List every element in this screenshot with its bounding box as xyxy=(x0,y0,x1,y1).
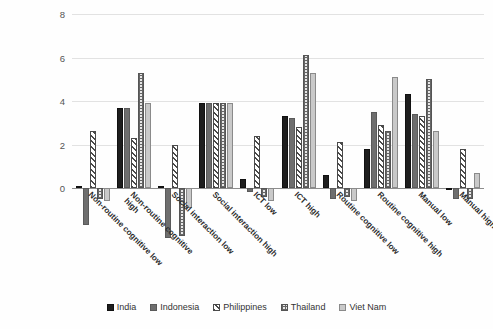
bar xyxy=(138,73,144,188)
bar xyxy=(296,127,302,188)
bar xyxy=(310,73,316,188)
legend-item-india[interactable]: India xyxy=(107,302,137,312)
x-axis-category-labels: Non-routine cognitive lowNon-routine cog… xyxy=(72,190,484,290)
bar xyxy=(364,149,370,188)
bar xyxy=(220,103,226,188)
bar xyxy=(405,94,411,188)
bar-group xyxy=(278,14,319,188)
legend-item-thailand[interactable]: Thailand xyxy=(281,302,326,312)
bar-group xyxy=(237,14,278,188)
x-axis-category-label: ICT low xyxy=(252,190,259,197)
bar xyxy=(426,79,432,188)
bar-chart: 02468 Non-routine cognitive lowNon-routi… xyxy=(0,0,493,329)
bar xyxy=(76,186,82,188)
legend-label: India xyxy=(117,302,137,312)
y-axis-tick-label: 8 xyxy=(60,9,65,20)
bar xyxy=(124,108,130,188)
x-axis-category-label: Social interaction low xyxy=(169,190,176,197)
bar-group xyxy=(113,14,154,188)
x-axis-category-label: Non-routine cognitive low xyxy=(87,190,94,197)
y-axis-tick-label: 2 xyxy=(60,139,65,150)
bar xyxy=(378,125,384,188)
bar xyxy=(158,186,164,188)
legend-swatch-icon xyxy=(107,304,114,311)
x-axis-category-label: Routine cognitive low xyxy=(334,190,341,197)
legend-item-viet-nam[interactable]: Viet Nam xyxy=(339,302,386,312)
bar xyxy=(254,136,260,188)
bar-groups xyxy=(72,14,484,188)
chart-legend: IndiaIndonesiaPhilippinesThailandViet Na… xyxy=(0,302,493,312)
bar xyxy=(117,108,123,188)
bar xyxy=(90,131,96,188)
legend-label: Indonesia xyxy=(160,302,199,312)
bar-group xyxy=(402,14,443,188)
bar xyxy=(419,116,425,188)
bar xyxy=(474,173,480,188)
bar-group xyxy=(72,14,113,188)
x-axis-category-label: ICT high xyxy=(293,190,300,197)
bar xyxy=(303,55,309,188)
legend-swatch-icon xyxy=(213,304,220,311)
bar-group xyxy=(319,14,360,188)
legend-swatch-icon xyxy=(150,304,157,311)
bar xyxy=(412,114,418,188)
bar xyxy=(323,175,329,188)
bar xyxy=(385,131,391,188)
legend-swatch-icon xyxy=(281,304,288,311)
bar xyxy=(213,103,219,188)
bar xyxy=(227,103,233,188)
legend-swatch-icon xyxy=(339,304,346,311)
x-axis-category-label: Manual high xyxy=(458,190,465,197)
bar-group xyxy=(443,14,484,188)
x-axis-category-label: Social interaction high xyxy=(210,190,217,197)
bar xyxy=(282,116,288,188)
legend-label: Philippines xyxy=(223,302,267,312)
bar xyxy=(460,149,466,188)
bar xyxy=(131,138,137,188)
bar xyxy=(199,103,205,188)
bar-group xyxy=(196,14,237,188)
bar xyxy=(145,103,151,188)
bar xyxy=(289,118,295,188)
bar xyxy=(206,103,212,188)
y-axis-tick-label: 6 xyxy=(60,52,65,63)
x-axis-category-label: Routine cognitive high xyxy=(375,190,382,197)
y-axis-tick-label: 0 xyxy=(60,183,65,194)
legend-label: Thailand xyxy=(291,302,326,312)
plot-area: 02468 xyxy=(72,14,484,188)
legend-item-indonesia[interactable]: Indonesia xyxy=(150,302,199,312)
x-axis-category-label: Manual low xyxy=(416,190,423,197)
bar xyxy=(240,179,246,188)
bar-group xyxy=(360,14,401,188)
bar xyxy=(371,112,377,188)
bar xyxy=(433,131,439,188)
y-axis-tick-label: 4 xyxy=(60,96,65,107)
bar-group xyxy=(154,14,195,188)
bar xyxy=(337,142,343,188)
bar xyxy=(392,77,398,188)
x-axis-category-label: Non-routine cognitivehigh xyxy=(121,190,134,203)
legend-label: Viet Nam xyxy=(349,302,386,312)
legend-item-philippines[interactable]: Philippines xyxy=(213,302,267,312)
bar xyxy=(172,145,178,189)
